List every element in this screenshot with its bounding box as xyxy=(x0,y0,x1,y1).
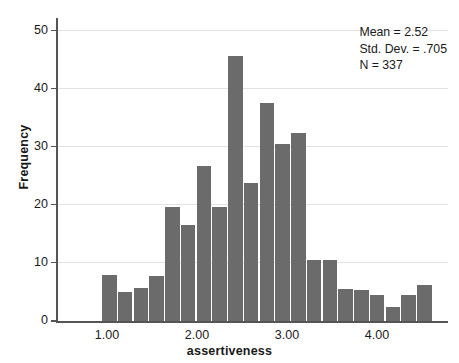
histogram-bar xyxy=(102,275,117,321)
stats-mean: Mean = 2.52 xyxy=(359,24,447,41)
y-axis-line xyxy=(56,18,58,322)
histogram-bar xyxy=(118,292,133,321)
histogram-bar xyxy=(354,290,369,321)
histogram-bar xyxy=(212,207,227,321)
histogram-bar xyxy=(260,103,275,321)
histogram-bar xyxy=(291,133,306,321)
histogram-bar xyxy=(228,56,243,321)
histogram-bar xyxy=(197,166,212,321)
y-tick-mark xyxy=(51,88,56,90)
x-tick-label: 1.00 xyxy=(95,328,119,342)
histogram-bar xyxy=(370,295,385,321)
gridline xyxy=(58,88,448,89)
x-tick-label: 3.00 xyxy=(275,328,299,342)
histogram-bar xyxy=(181,225,196,321)
y-tick-label: 30 xyxy=(34,139,48,153)
histogram-bar xyxy=(401,295,416,321)
y-tick-mark xyxy=(51,262,56,264)
x-tick-label: 2.00 xyxy=(185,328,209,342)
histogram-bar xyxy=(323,260,338,321)
histogram-chart: Frequency 01020304050 1.002.003.004.00 a… xyxy=(0,0,459,363)
histogram-bar xyxy=(275,144,290,321)
histogram-bar xyxy=(417,285,432,321)
histogram-bar xyxy=(134,288,149,321)
histogram-bar xyxy=(244,183,259,321)
y-tick-label: 10 xyxy=(34,255,48,269)
y-tick-mark xyxy=(51,204,56,206)
histogram-bar xyxy=(338,289,353,321)
histogram-bar xyxy=(149,276,164,321)
gridline xyxy=(58,146,448,147)
y-tick-label: 40 xyxy=(34,81,48,95)
x-axis-title: assertiveness xyxy=(0,344,459,358)
histogram-bar xyxy=(307,260,322,321)
y-tick-mark xyxy=(51,320,56,322)
y-tick-label: 20 xyxy=(34,197,48,211)
x-axis-line xyxy=(56,321,448,323)
histogram-bar xyxy=(165,207,180,321)
y-tick-mark xyxy=(51,30,56,32)
y-axis-title: Frequency xyxy=(17,102,31,212)
stats-std-dev: Std. Dev. = .705 xyxy=(359,41,447,58)
y-tick-label: 50 xyxy=(34,23,48,37)
histogram-bar xyxy=(386,307,401,321)
stats-n: N = 337 xyxy=(359,57,447,74)
y-tick-label: 0 xyxy=(41,313,48,327)
x-tick-label: 4.00 xyxy=(365,328,389,342)
stats-annotation: Mean = 2.52 Std. Dev. = .705 N = 337 xyxy=(359,24,447,74)
y-tick-mark xyxy=(51,146,56,148)
